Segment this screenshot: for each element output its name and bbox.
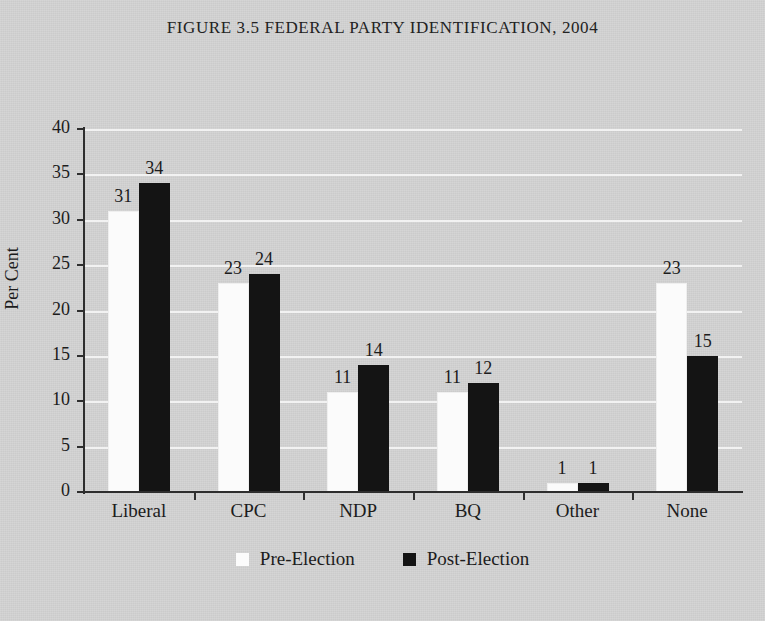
x-axis-label-ndp: NDP [303,500,413,522]
gridline [84,401,742,403]
legend-label-pre-election: Pre-Election [260,548,355,570]
bar-value-label: 1 [570,458,617,479]
y-axis-tick-label: 10 [36,389,70,410]
bar-value-label: 24 [241,249,288,270]
chart-legend: Pre-Election Post-Election [0,548,765,570]
x-axis-tick [303,493,305,500]
x-axis-label-bq: BQ [413,500,523,522]
bar-liberal-post-election [139,183,170,492]
bar-value-label: 31 [100,186,147,207]
bar-cpc-pre-election [218,283,249,492]
y-axis-tick-label: 40 [36,117,70,138]
bar-value-label: 11 [319,367,366,388]
y-axis-tick-label: 20 [36,299,70,320]
bar-none-post-election [687,356,718,492]
y-axis-tick-label: 25 [36,253,70,274]
bar-none-pre-election [656,283,687,492]
x-axis-tick [523,493,525,500]
x-axis-tick [194,493,196,500]
x-axis-label-none: None [632,500,742,522]
legend-item-pre-election: Pre-Election [236,548,355,570]
y-axis-tick-label: 30 [36,208,70,229]
y-axis-tick [77,310,84,312]
y-axis-tick [77,264,84,266]
y-axis-tick-label: 5 [36,435,70,456]
legend-label-post-election: Post-Election [427,548,529,570]
bar-value-label: 34 [131,158,178,179]
x-axis-label-cpc: CPC [194,500,304,522]
gridline [84,356,742,358]
gridline [84,174,742,176]
legend-swatch-post-election-icon [403,553,416,566]
y-axis-tick [77,219,84,221]
gridline [84,220,742,222]
bar-value-label: 12 [460,358,507,379]
y-axis-tick [77,173,84,175]
plot-area [84,129,742,492]
bar-cpc-post-election [249,274,280,492]
legend-swatch-pre-election-icon [236,553,249,566]
bar-ndp-pre-election [327,392,358,492]
bar-bq-post-election [468,383,499,492]
y-axis-tick-label: 15 [36,344,70,365]
figure-page: FIGURE 3.5 FEDERAL PARTY IDENTIFICATION,… [0,0,765,621]
y-axis-tick [77,128,84,130]
legend-item-post-election: Post-Election [403,548,529,570]
bar-value-label: 23 [648,258,695,279]
x-axis-label-liberal: Liberal [84,500,194,522]
y-axis-label: Per Cent [2,247,23,310]
y-axis-tick [77,355,84,357]
x-axis-tick [632,493,634,500]
gridline [84,447,742,449]
y-axis-tick [77,446,84,448]
y-axis-tick [77,491,84,493]
bar-liberal-pre-election [108,211,139,492]
x-axis-label-other: Other [523,500,633,522]
bar-bq-pre-election [437,392,468,492]
y-axis-tick-label: 35 [36,162,70,183]
bar-value-label: 15 [679,331,726,352]
x-axis-tick [413,493,415,500]
y-axis-tick-label: 0 [36,480,70,501]
gridline [84,265,742,267]
y-axis-tick [77,400,84,402]
bar-value-label: 14 [350,340,397,361]
bar-chart: Per Cent 05101520253035403134Liberal2324… [0,0,765,621]
gridline [84,311,742,313]
gridline [84,129,742,131]
